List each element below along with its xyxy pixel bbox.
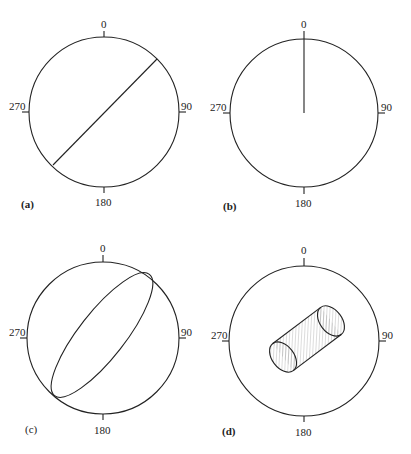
cylinder-icon xyxy=(264,301,350,378)
label-180: 180 xyxy=(295,197,312,209)
label-270: 270 xyxy=(9,100,26,112)
label-270: 270 xyxy=(9,326,26,338)
panel-label: (d) xyxy=(222,425,236,438)
small-circle-ellipse xyxy=(36,260,167,410)
label-90: 90 xyxy=(181,100,193,112)
label-180: 180 xyxy=(94,424,111,436)
net-circle xyxy=(27,262,179,414)
great-circle-line xyxy=(53,59,157,165)
label-270: 270 xyxy=(211,329,228,341)
label-90: 90 xyxy=(381,101,393,113)
label-0: 0 xyxy=(100,242,106,254)
panel-a: 0 90 180 270 (a) xyxy=(9,18,193,211)
panel-d: 0 90 180 270 (d) xyxy=(211,244,394,438)
label-90: 90 xyxy=(382,329,394,341)
panel-c: 0 90 180 270 (c) xyxy=(9,242,193,436)
panel-b: 0 90 180 270 (b) xyxy=(210,18,393,213)
label-0: 0 xyxy=(301,18,307,30)
label-270: 270 xyxy=(210,101,227,113)
label-0: 0 xyxy=(301,244,307,256)
panel-label: (c) xyxy=(25,423,38,436)
label-90: 90 xyxy=(181,326,193,338)
stereonet-figure: 0 90 180 270 (a) 0 90 180 270 (b) 0 90 1… xyxy=(0,0,411,454)
label-180: 180 xyxy=(295,426,312,438)
panel-label: (b) xyxy=(223,200,237,213)
panel-label: (a) xyxy=(21,198,34,211)
label-180: 180 xyxy=(95,196,112,208)
label-0: 0 xyxy=(101,18,107,30)
